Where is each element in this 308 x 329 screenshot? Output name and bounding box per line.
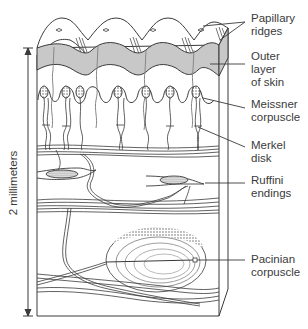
meissner-corpuscles xyxy=(38,86,214,103)
label-outer-layer: Outer layer of skin xyxy=(251,50,284,89)
label-line: corpuscle xyxy=(251,111,300,124)
label-line: Papillary xyxy=(251,12,295,25)
label-line: layer xyxy=(251,63,284,76)
label-line: disk xyxy=(251,152,286,165)
label-papillary-ridges: Papillary ridges xyxy=(251,12,295,38)
dermal-fiber-bundle-lower xyxy=(37,198,219,214)
sweat-ducts xyxy=(51,68,193,130)
label-meissner-corpuscle: Meissner corpuscle xyxy=(251,98,300,124)
nerve-fibers-upper xyxy=(43,98,200,150)
label-merkel-disk: Merkel disk xyxy=(251,139,286,165)
pacinian-corpuscle xyxy=(37,227,206,292)
label-line: Outer xyxy=(251,50,284,63)
label-line: Meissner xyxy=(251,98,300,111)
label-line: Pacinian xyxy=(251,253,300,266)
label-line: ridges xyxy=(251,25,295,38)
ruffini-endings xyxy=(37,168,204,186)
label-line: corpuscle xyxy=(251,266,300,279)
scale-bar-label: 2 millimeters xyxy=(7,143,19,223)
label-line: Merkel xyxy=(251,139,286,152)
label-pacinian-corpuscle: Pacinian corpuscle xyxy=(251,253,300,279)
label-ruffini-endings: Ruffini endings xyxy=(251,174,291,200)
label-line: Ruffini xyxy=(251,174,291,187)
label-line: of skin xyxy=(251,76,284,89)
label-line: endings xyxy=(251,187,291,200)
scale-bar xyxy=(23,48,33,316)
